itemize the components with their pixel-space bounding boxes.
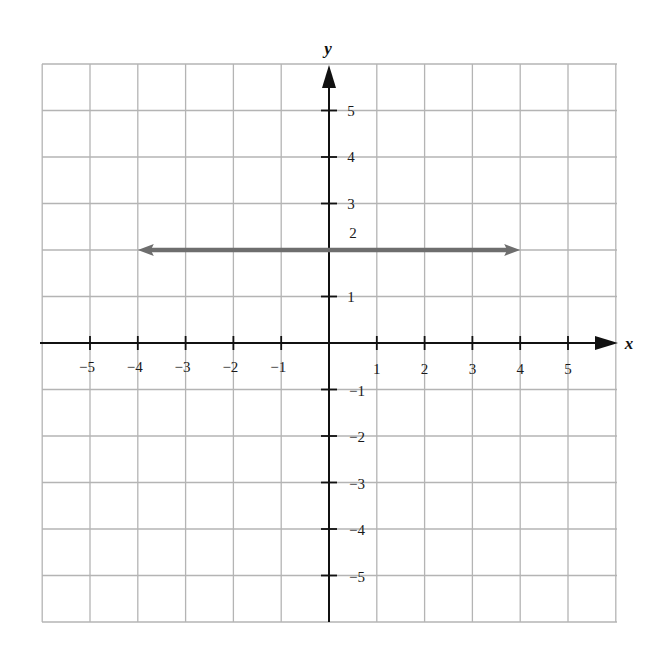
x-tick-label: −4 [127, 359, 143, 375]
x-axis-arrow-icon [595, 336, 618, 350]
y-tick-label: 4 [347, 149, 355, 165]
y-tick-label: 1 [347, 289, 355, 305]
y-tick-label: 5 [347, 103, 355, 119]
y-axis-label: y [322, 39, 332, 58]
x-tick-label: 5 [564, 361, 572, 377]
coordinate-plane: −5−4−3−2−11234554321−1−2−3−4−5yx [0, 0, 665, 646]
x-tick-label: 1 [373, 361, 381, 377]
y-axis-arrow-icon [322, 65, 336, 88]
axis-labels: −5−4−3−2−11234554321−1−2−3−4−5yx [79, 39, 634, 585]
y-tick-label: −5 [349, 569, 365, 585]
x-tick-label: 3 [469, 361, 477, 377]
axes [40, 65, 618, 622]
x-tick-label: 2 [421, 361, 429, 377]
x-tick-label: −3 [175, 359, 191, 375]
y-tick-label: −3 [349, 476, 365, 492]
x-tick-label: 4 [516, 361, 524, 377]
y-tick-label: 2 [349, 225, 357, 241]
x-axis-label: x [624, 334, 634, 353]
x-tick-label: −1 [270, 359, 286, 375]
y-tick-label: −1 [349, 383, 365, 399]
y-tick-label: −4 [349, 522, 365, 538]
x-tick-label: −2 [222, 359, 238, 375]
x-tick-label: −5 [79, 359, 95, 375]
y-tick-label: 3 [347, 196, 355, 212]
y-tick-label: −2 [349, 429, 365, 445]
